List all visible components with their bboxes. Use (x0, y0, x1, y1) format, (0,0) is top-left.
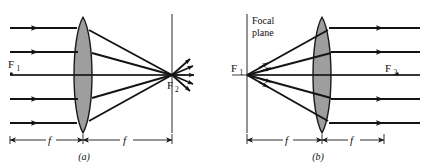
panel-a-f2-subscript: 2 (175, 85, 179, 94)
panel-b-f1-subscript: 1 (240, 68, 244, 77)
panel-b-f2-subscript: 2 (394, 68, 398, 77)
panel-a-f1-point (10, 73, 13, 76)
panel-b-f1-label: F (231, 62, 237, 74)
panel-b-focal-plane-label-line1: Focal (252, 15, 274, 26)
optics-figure: F 1 F 2 f f (a) (0, 0, 426, 166)
panel-b-caption: (b) (312, 151, 324, 163)
panel-b-f2-point (396, 73, 399, 76)
panel-a-f1-label: F (8, 58, 14, 70)
panel-a-f2-label: F (167, 79, 173, 91)
panel-a-f1-subscript: 1 (17, 64, 21, 73)
figure-background (0, 0, 426, 166)
figure-canvas: F 1 F 2 f f (a) (0, 0, 426, 166)
panel-b-focal-plane-label-line2: plane (252, 27, 274, 38)
panel-a-caption: (a) (78, 151, 90, 163)
panel-b-f2-label: F (385, 62, 391, 74)
